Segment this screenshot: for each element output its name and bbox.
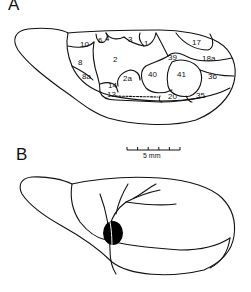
svg-text:2a: 2a bbox=[123, 74, 132, 83]
svg-text:6: 6 bbox=[98, 36, 103, 45]
svg-text:17: 17 bbox=[192, 38, 201, 47]
svg-text:39: 39 bbox=[168, 53, 177, 62]
svg-text:20: 20 bbox=[168, 92, 177, 101]
svg-text:4: 4 bbox=[105, 34, 110, 43]
area-labels: 10 6 4 3 1 17 2 39 18a 8 2a 40 41 36 8a … bbox=[78, 34, 217, 101]
svg-text:40: 40 bbox=[148, 70, 157, 79]
svg-text:10: 10 bbox=[80, 40, 89, 49]
svg-text:41: 41 bbox=[177, 70, 186, 79]
svg-text:36: 36 bbox=[208, 72, 217, 81]
svg-text:18a: 18a bbox=[202, 54, 216, 63]
scale-bar-label: 5 mm bbox=[143, 152, 161, 159]
lesion-mark bbox=[103, 221, 123, 245]
panel-label-b: B bbox=[16, 146, 27, 163]
svg-text:8: 8 bbox=[78, 58, 83, 67]
svg-text:1: 1 bbox=[144, 39, 149, 48]
svg-text:3: 3 bbox=[128, 35, 133, 44]
brain-area-map: 10 6 4 3 1 17 2 39 18a 8 2a 40 41 36 8a … bbox=[0, 0, 251, 140]
svg-text:35: 35 bbox=[196, 91, 205, 100]
svg-text:8a: 8a bbox=[82, 72, 91, 81]
svg-text:13: 13 bbox=[107, 90, 116, 99]
svg-text:14: 14 bbox=[108, 81, 117, 90]
svg-text:2: 2 bbox=[113, 55, 118, 64]
